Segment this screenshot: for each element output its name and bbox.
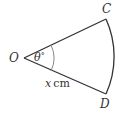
sector-diagram: O C D θ° xcm <box>0 0 119 113</box>
angle-marker-arc <box>51 45 54 71</box>
angle-unit: ° <box>41 51 45 60</box>
radius-length-label: xcm <box>45 77 70 90</box>
label-point-o: O <box>9 51 19 65</box>
radius-variable: x <box>45 77 52 90</box>
arc-cd <box>106 19 114 94</box>
label-point-c: C <box>102 2 111 16</box>
label-point-d: D <box>99 97 110 111</box>
angle-label: θ° <box>34 51 45 64</box>
radius-unit: cm <box>53 77 70 90</box>
